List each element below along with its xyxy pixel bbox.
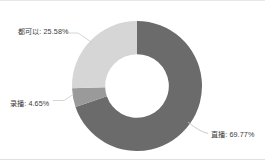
slice-label-zhibo: 直播: 69.77%	[211, 131, 254, 138]
leader-line-lubo	[53, 94, 74, 100]
leader-line-zhibo	[188, 122, 208, 134]
leader-line-dukeyi	[66, 33, 92, 43]
slice-label-lubo: 录播: 4.65%	[10, 100, 49, 107]
donut-chart-container: 都可以: 25.58% 录播: 4.65% 直播: 69.77%	[0, 0, 265, 160]
donut-slice-dukeyi[interactable]	[72, 21, 137, 88]
slice-label-dukeyi: 都可以: 25.58%	[18, 28, 68, 35]
